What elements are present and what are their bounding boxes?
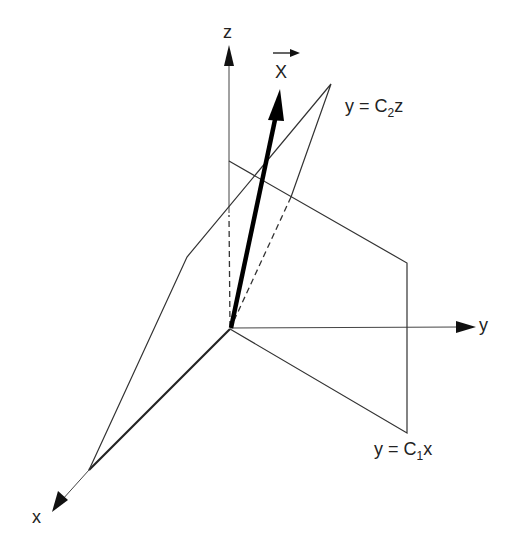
- plane-c1x-label: y = C1x: [374, 439, 432, 463]
- vector-x: [231, 89, 284, 328]
- y-axis: [230, 321, 476, 333]
- plane-c2z-label: y = C2z: [345, 96, 403, 120]
- vector-label: X: [273, 49, 300, 82]
- z-axis-label: z: [223, 22, 232, 42]
- vector-accent-arrow-icon: [290, 49, 300, 57]
- y-axis-label: y: [479, 315, 488, 335]
- diagram-canvas: z y x X y = C2z y = C1x: [0, 0, 515, 549]
- y-axis-arrowhead-icon: [456, 321, 476, 333]
- vector-arrowhead-icon: [268, 89, 284, 121]
- z-axis: [224, 45, 234, 327]
- vector-label-text: X: [275, 62, 287, 82]
- x-axis-arrowhead-icon: [52, 491, 68, 512]
- z-axis-arrowhead-icon: [224, 45, 234, 66]
- x-axis-label: x: [32, 507, 41, 527]
- plane-c2z: [89, 84, 331, 470]
